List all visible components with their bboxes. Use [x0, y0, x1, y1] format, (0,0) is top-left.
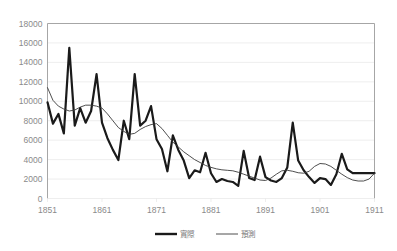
y-tick-label: 16000 — [19, 38, 43, 48]
data-series — [48, 48, 375, 186]
x-tick-label: 1891 — [256, 205, 275, 215]
series-line-actual — [48, 48, 375, 186]
y-tick-label: 0 — [38, 194, 43, 204]
line-chart: 0200040006000800010000120001400016000180… — [0, 0, 397, 251]
legend-label-actual: 實際 — [180, 229, 195, 239]
x-tick-label: 1911 — [365, 205, 384, 215]
y-tick-label: 4000 — [24, 155, 43, 165]
x-tick-label: 1901 — [311, 205, 330, 215]
x-tick-label: 1861 — [93, 205, 112, 215]
y-tick-label: 18000 — [19, 19, 43, 29]
gridlines — [48, 24, 375, 180]
chart-legend: 實際預測 — [155, 229, 255, 239]
x-tick-label: 1881 — [202, 205, 221, 215]
y-tick-label: 6000 — [24, 135, 43, 145]
x-axis-tick-labels: 1851186118711881189119011911 — [38, 199, 384, 215]
x-tick-label: 1871 — [147, 205, 166, 215]
y-tick-label: 2000 — [24, 174, 43, 184]
y-tick-label: 14000 — [19, 57, 43, 67]
x-tick-label: 1851 — [38, 205, 57, 215]
y-axis-tick-labels: 0200040006000800010000120001400016000180… — [19, 19, 43, 204]
y-tick-label: 12000 — [19, 77, 43, 87]
series-line-forecast — [48, 88, 375, 181]
legend-label-forecast: 預測 — [241, 229, 255, 239]
chart-container: 0200040006000800010000120001400016000180… — [0, 0, 397, 251]
y-tick-label: 10000 — [19, 96, 43, 106]
y-tick-label: 8000 — [24, 116, 43, 126]
